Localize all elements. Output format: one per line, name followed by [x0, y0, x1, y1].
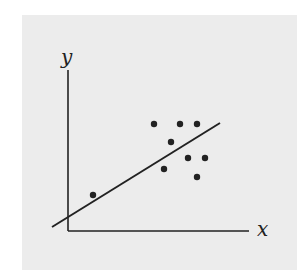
data-point — [202, 155, 208, 161]
y-axis-label: y — [60, 45, 73, 69]
scatter-chart: y x — [0, 0, 306, 270]
data-point — [90, 192, 96, 198]
data-point — [194, 121, 200, 127]
data-point — [177, 121, 183, 127]
data-point — [161, 166, 167, 172]
data-point — [151, 121, 157, 127]
data-point — [194, 174, 200, 180]
data-points — [90, 121, 208, 198]
x-axis-label: x — [257, 217, 268, 241]
data-point — [168, 139, 174, 145]
data-point — [185, 155, 191, 161]
